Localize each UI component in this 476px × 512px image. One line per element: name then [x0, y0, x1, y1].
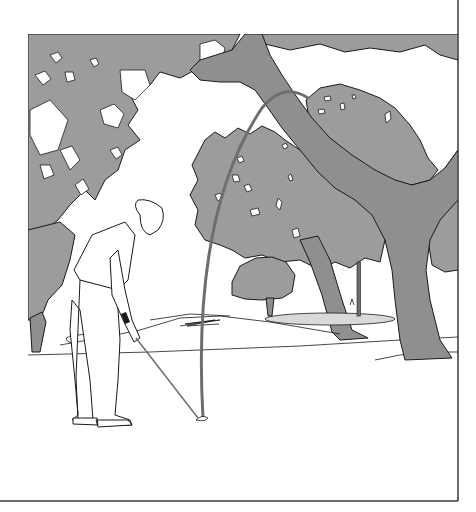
golfer-head	[135, 200, 163, 235]
left-lower-tree	[28, 222, 75, 320]
golf-club-shaft	[136, 338, 198, 418]
golfer	[70, 200, 163, 427]
distant-tree-canopy	[232, 257, 295, 300]
scene	[28, 34, 458, 427]
flag-marker	[350, 299, 354, 305]
left-lower-trunk	[30, 312, 46, 352]
putting-green	[265, 313, 395, 325]
golf-illustration	[0, 0, 476, 512]
golfer-torso	[74, 222, 135, 290]
distant-tree-trunk	[266, 298, 274, 316]
illustration-frame	[0, 0, 476, 512]
flagstick	[357, 262, 361, 316]
top-canopy	[250, 34, 458, 60]
